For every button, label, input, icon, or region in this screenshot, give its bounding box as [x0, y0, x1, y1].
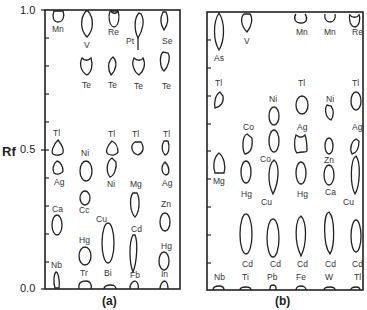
spot-ni-b2 — [326, 105, 334, 120]
spot-cd-b5 — [351, 220, 361, 252]
label-cd-b1: Cd — [242, 259, 253, 269]
label-co-b2: Co — [260, 154, 271, 164]
label-tl-2: Tl — [108, 129, 115, 139]
label-cd-b5: Cd — [352, 259, 363, 269]
label-mn-b2: Mn — [324, 27, 336, 37]
spot-ni-1 — [80, 161, 92, 181]
spot-tl-4 — [162, 141, 169, 155]
y-tick-label-0: 0.0 — [20, 282, 35, 294]
chromatogram-figure: Rf 1.0 0.5 0.0 Mn Tl Ag Ca Nb — [0, 0, 367, 310]
label-ag-b1: Ag — [297, 122, 308, 132]
spot-hg — [79, 247, 91, 265]
label-cd: Cd — [131, 224, 142, 234]
label-cc: Cc — [79, 205, 90, 215]
spot-tl-b3 — [351, 92, 361, 110]
label-co-b1: Co — [243, 122, 254, 132]
spot-ni-2 — [107, 158, 116, 177]
panel-b: As Tl Mg Nb V Co Hg Cd Ti Ni Co Cu Cd Pb… — [207, 12, 363, 308]
y-tick-label-05: 0.5 — [20, 143, 35, 155]
label-zn-b: Zn — [324, 155, 334, 165]
label-zn: Zn — [161, 199, 171, 209]
spot-tr — [79, 281, 91, 289]
spot-cd — [130, 235, 137, 272]
label-te-2: Te — [108, 80, 117, 90]
label-pt: Pt — [126, 36, 135, 46]
spot-ag-b1 — [295, 135, 307, 153]
spot-ag — [53, 161, 63, 174]
label-ag: Ag — [54, 177, 65, 187]
label-ag-b2: Ag — [352, 122, 363, 132]
label-te-3: Te — [134, 81, 143, 91]
spot-v — [82, 11, 93, 37]
spot-te-1 — [81, 58, 92, 75]
label-cd-b4: Cd — [325, 259, 336, 269]
spot-as — [215, 13, 224, 50]
spot-cu-b1 — [269, 160, 278, 194]
label-ni-b1: Ni — [269, 94, 277, 104]
panel-b-caption: (b) — [275, 294, 290, 308]
label-cd-b3: Cd — [297, 259, 308, 269]
label-fe-b: Fe — [296, 272, 306, 282]
label-hg: Hg — [79, 235, 90, 245]
spot-te-2 — [109, 57, 116, 75]
label-tl-b2: Tl — [298, 78, 305, 88]
spot-te-3 — [133, 58, 145, 75]
label-ni-1: Ni — [81, 148, 89, 158]
label-se: Se — [162, 36, 173, 46]
spot-fb — [130, 281, 139, 289]
spot-cd-b2 — [267, 219, 279, 257]
label-te-4: Te — [162, 81, 171, 91]
label-tl-b3: Tl — [352, 78, 359, 88]
spot-v-b — [242, 14, 252, 32]
spot-mg — [131, 193, 140, 217]
spot-hg-b2 — [296, 162, 306, 184]
spot-hg-b1 — [241, 161, 251, 183]
label-re: Re — [108, 27, 119, 37]
spot-pt — [135, 13, 143, 38]
label-v-b: V — [244, 36, 250, 46]
label-ca-b: Ca — [325, 187, 336, 197]
label-as: As — [214, 53, 224, 63]
spot-cd-b3 — [296, 216, 305, 256]
label-tl-b1: Tl — [215, 78, 222, 88]
spot-ca — [52, 215, 62, 235]
panel-a: Mn Tl Ag Ca Nb V Te Ni Cc Hg Tr Re Te Tl… — [41, 10, 180, 308]
spot-mg-b — [214, 153, 225, 173]
spot-cu-b2 — [351, 156, 359, 194]
label-ni-2: Ni — [107, 179, 115, 189]
spot-nb — [54, 272, 59, 288]
spot-tl-2 — [107, 141, 118, 155]
label-ca: Ca — [52, 204, 63, 214]
panel-b-frame — [207, 12, 363, 290]
spot-cd-b4 — [325, 212, 334, 254]
label-pb-b: Pb — [267, 272, 278, 282]
spot-co-b2 — [269, 130, 279, 152]
y-tick-label-1: 1.0 — [20, 4, 35, 16]
label-v: V — [84, 40, 90, 50]
spot-tl-b1 — [215, 92, 224, 108]
spot-zn-b — [325, 138, 333, 154]
spot-tl-3 — [132, 142, 143, 155]
label-bi: Bi — [104, 268, 112, 278]
spot-cd-b1 — [240, 214, 252, 254]
label-w-b: W — [325, 272, 333, 282]
label-ni-b2: Ni — [326, 94, 334, 104]
panel-a-frame — [45, 10, 180, 289]
spot-mn-b2 — [325, 14, 336, 22]
spot-zn — [160, 213, 170, 231]
label-hg-2: Hg — [161, 241, 172, 251]
label-tl: Tl — [53, 128, 60, 138]
label-tl-4: Tl — [163, 129, 170, 139]
y-axis-label: Rf — [2, 144, 16, 159]
label-hg-b1: Hg — [241, 189, 252, 199]
spot-ca-b — [324, 165, 334, 185]
spot-cu — [102, 223, 114, 263]
label-ag-2: Ag — [162, 178, 173, 188]
label-mn: Mn — [52, 24, 64, 34]
label-cu-b1: Cu — [261, 197, 272, 207]
label-hg-b2: Hg — [297, 189, 308, 199]
panel-a-caption: (a) — [102, 294, 117, 308]
spot-cc — [80, 191, 90, 205]
label-cu-b2: Cu — [343, 197, 354, 207]
spot-ni-b1 — [269, 107, 279, 125]
